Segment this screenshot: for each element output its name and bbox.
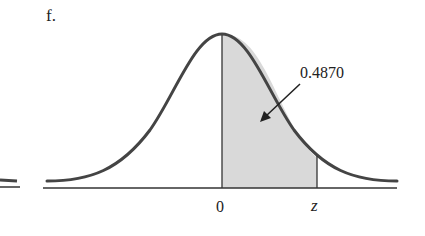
part-label: f. — [46, 6, 56, 26]
area-label: 0.4870 — [300, 64, 344, 82]
tick-label-zero: 0 — [216, 198, 224, 216]
normal-curve-diagram — [0, 0, 425, 236]
tick-label-z: z — [311, 196, 318, 216]
prev-figure-curve-fragment — [0, 180, 17, 181]
shaded-area — [222, 34, 317, 188]
